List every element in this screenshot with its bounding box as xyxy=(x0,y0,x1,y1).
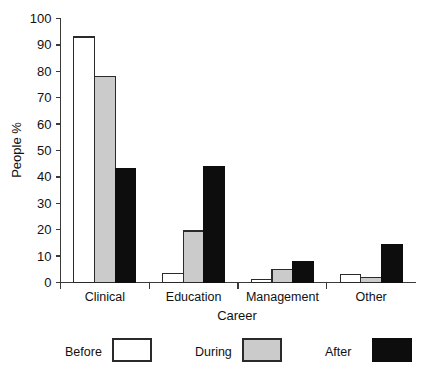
y-tick-label: 100 xyxy=(30,11,52,26)
y-tick-label: 30 xyxy=(37,196,51,211)
y-tick-label: 90 xyxy=(37,37,51,52)
x-category-label: Clinical xyxy=(85,290,125,304)
y-tick-label: 60 xyxy=(37,117,51,132)
bar-during-other xyxy=(361,277,382,282)
bar-before-other xyxy=(340,275,361,283)
bar-during-education xyxy=(183,231,204,282)
y-tick-label: 20 xyxy=(37,222,51,237)
x-category-label: Education xyxy=(166,290,222,304)
bar-before-management xyxy=(251,280,272,283)
legend-label-during: During xyxy=(195,345,232,359)
legend-label-before: Before xyxy=(65,345,102,359)
legend-label-after: After xyxy=(325,345,351,359)
legend-swatch-during xyxy=(243,339,281,361)
x-category-label: Other xyxy=(355,290,386,304)
bar-before-clinical xyxy=(74,37,95,283)
x-axis-title: Career xyxy=(217,308,257,323)
x-category-label: Management xyxy=(246,290,319,304)
y-axis-title: People % xyxy=(9,122,24,178)
bar-chart: 0102030405060708090100 ClinicalEducation… xyxy=(0,0,433,384)
legend-swatch-before xyxy=(113,339,151,361)
bar-before-education xyxy=(163,273,184,282)
y-tick-label: 10 xyxy=(37,249,51,264)
bar-after-education xyxy=(204,166,225,282)
y-tick-label: 80 xyxy=(37,64,51,79)
legend-swatch-after xyxy=(373,339,411,361)
y-tick-label: 40 xyxy=(37,169,51,184)
y-tick-label: 0 xyxy=(44,275,51,290)
bar-during-clinical xyxy=(95,77,116,283)
chart-canvas: 0102030405060708090100 ClinicalEducation… xyxy=(0,0,433,384)
bar-after-clinical xyxy=(115,169,136,283)
y-tick-label: 50 xyxy=(37,143,51,158)
bar-after-management xyxy=(293,261,314,282)
bar-during-management xyxy=(272,269,293,282)
bar-after-other xyxy=(381,244,402,282)
y-tick-label: 70 xyxy=(37,90,51,105)
